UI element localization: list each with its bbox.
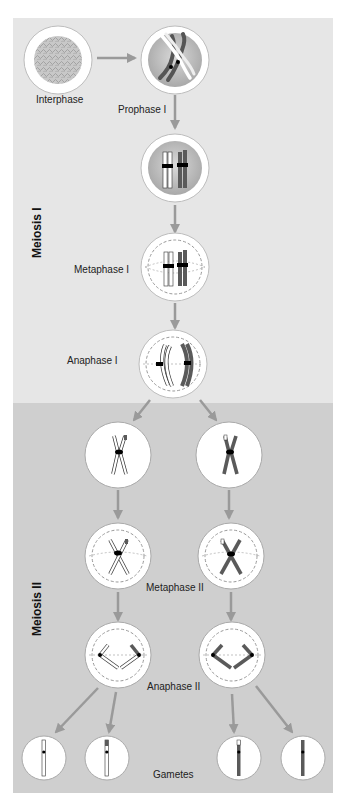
gamete-3 <box>217 736 261 780</box>
gamete-4 <box>281 736 325 780</box>
metaphase-2-label: Metaphase II <box>146 582 204 593</box>
gametes-label: Gametes <box>153 769 194 780</box>
gamete-2 <box>85 736 129 780</box>
metaphase-1-cell <box>141 233 209 301</box>
anaphase-1-cell <box>139 330 207 398</box>
metaphase-1-label: Metaphase I <box>74 264 129 275</box>
prophase-1-label: Prophase I <box>118 104 166 115</box>
meiosis-2-cell-left <box>85 422 151 488</box>
anaphase-2-cell-right <box>199 622 265 688</box>
interphase-cell <box>24 26 92 94</box>
anaphase-2-label: Anaphase II <box>147 681 200 692</box>
metaphase-2-cell-right <box>198 523 264 589</box>
meiosis-diagram: Meiosis I Meiosis II Interphase Prophase… <box>0 0 349 811</box>
metaphase-2-cell-left <box>85 523 151 589</box>
synapsis-cell <box>141 134 209 202</box>
gamete-1 <box>22 736 66 780</box>
meiosis-2-panel <box>13 403 333 793</box>
anaphase-1-label: Anaphase I <box>67 355 118 366</box>
interphase-label: Interphase <box>36 94 84 105</box>
meiosis-1-label: Meiosis I <box>30 207 44 258</box>
anaphase-2-cell-left <box>85 622 151 688</box>
meiosis-2-cell-right <box>196 422 262 488</box>
prophase-1-cell <box>141 26 209 94</box>
meiosis-2-label: Meiosis II <box>30 582 44 636</box>
